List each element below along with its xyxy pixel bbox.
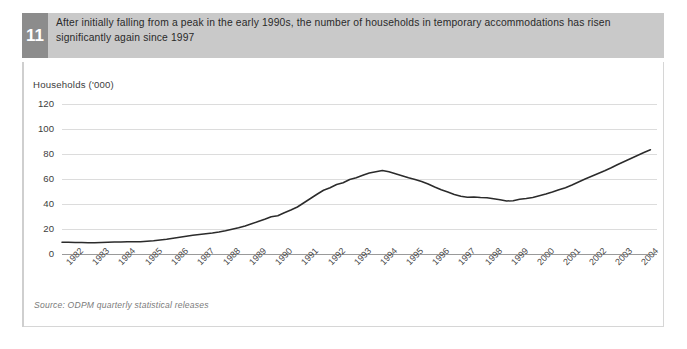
- figure-panel: 11 After initially falling from a peak i…: [0, 0, 687, 349]
- y-axis-tick-label: 80: [20, 148, 54, 159]
- figure-title: After initially falling from a peak in t…: [56, 16, 656, 45]
- figure-number: 11: [26, 27, 44, 44]
- y-axis-tick-label: 120: [20, 98, 54, 109]
- series-line-chart: [62, 104, 657, 254]
- y-axis-tick-label: 40: [20, 198, 54, 209]
- y-axis-tick-label: 100: [20, 123, 54, 134]
- plot-area: 020406080100120 198219831984198519861987…: [62, 104, 657, 254]
- figure-number-box: 11: [22, 13, 48, 58]
- source-note: Source: ODPM quarterly statistical relea…: [34, 300, 209, 310]
- y-axis-tick-label: 0: [20, 248, 54, 259]
- y-axis-tick-label: 60: [20, 173, 54, 184]
- y-axis-title: Households ('000): [33, 79, 114, 90]
- y-axis-tick-label: 20: [20, 223, 54, 234]
- series-line: [62, 150, 650, 243]
